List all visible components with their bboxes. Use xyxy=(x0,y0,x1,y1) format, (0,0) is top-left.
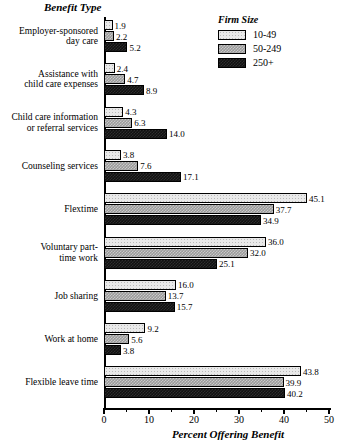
bar-value-label: 25.1 xyxy=(219,259,235,269)
bar xyxy=(104,345,121,355)
legend-swatch xyxy=(218,44,246,54)
x-tick-minor-25 xyxy=(216,409,217,412)
legend-label: 10-49 xyxy=(253,29,276,40)
bar-value-label: 3.8 xyxy=(123,346,134,356)
bar-value-label: 8.9 xyxy=(146,86,157,96)
legend-swatch xyxy=(218,58,246,68)
bar xyxy=(104,366,301,376)
x-axis-title-text: Percent Offering Benefit xyxy=(172,428,284,440)
bar-value-label: 13.7 xyxy=(168,291,184,301)
category-label: Job sharing xyxy=(0,291,98,302)
bar-value-label: 17.1 xyxy=(183,172,199,182)
x-tick-label-40: 40 xyxy=(279,414,289,425)
x-tick-label-50: 50 xyxy=(324,414,334,425)
bar-value-label: 39.9 xyxy=(286,378,302,388)
bar-value-label: 37.7 xyxy=(276,205,292,215)
x-tick-label-20: 20 xyxy=(189,414,199,425)
x-tick-label-10: 10 xyxy=(144,414,154,425)
chart-figure: Benefit Type 01020304050 1.92.25.22.44.7… xyxy=(0,0,344,446)
legend-title: Firm Size xyxy=(218,14,328,25)
bar xyxy=(104,129,167,139)
bar-value-label: 4.7 xyxy=(127,75,138,85)
category-label: Assistance with child care expenses xyxy=(0,69,98,90)
bar-value-label: 14.0 xyxy=(169,129,185,139)
legend-rows: 10-4950-249250+ xyxy=(218,29,328,68)
category-label: Child care information or referral servi… xyxy=(0,112,98,133)
category-label: Counseling services xyxy=(0,161,98,172)
bar xyxy=(104,291,166,301)
category-label: Flexible leave time xyxy=(0,377,98,388)
x-tick-minor-35 xyxy=(261,409,262,412)
x-axis-title: Percent Offering Benefit xyxy=(0,428,344,440)
legend-label: 50-249 xyxy=(253,43,281,54)
bar-value-label: 45.1 xyxy=(309,194,325,204)
bar-value-label: 1.9 xyxy=(115,21,126,31)
bar-value-label: 9.2 xyxy=(147,324,158,334)
bar xyxy=(104,31,114,41)
category-label: Work at home xyxy=(0,334,98,345)
category-label: Employer-sponsored day care xyxy=(0,26,98,47)
bar-value-label: 5.2 xyxy=(129,43,140,53)
bar xyxy=(104,323,145,333)
bar xyxy=(104,74,125,84)
bar-value-label: 5.6 xyxy=(131,335,142,345)
category-label: Flextime xyxy=(0,204,98,215)
bar xyxy=(104,193,307,203)
x-tick-label-30: 30 xyxy=(234,414,244,425)
bar xyxy=(104,20,113,30)
bar-value-label: 3.8 xyxy=(123,150,134,160)
bar xyxy=(104,107,123,117)
bar-value-label: 4.3 xyxy=(125,107,136,117)
bar xyxy=(104,42,127,52)
bar-value-label: 40.2 xyxy=(287,389,303,399)
bar-value-label: 36.0 xyxy=(268,237,284,247)
bar xyxy=(104,118,132,128)
bar xyxy=(104,248,248,258)
legend-item: 250+ xyxy=(218,57,328,68)
legend-swatch xyxy=(218,30,246,40)
bar xyxy=(104,377,284,387)
bar-value-label: 6.3 xyxy=(134,118,145,128)
bar xyxy=(104,215,261,225)
category-label: Voluntary part- time work xyxy=(0,242,98,263)
bar-value-label: 2.2 xyxy=(116,32,127,42)
bar xyxy=(104,85,144,95)
x-tick-label-0: 0 xyxy=(102,414,107,425)
legend-label: 250+ xyxy=(253,57,274,68)
x-tick-minor-5 xyxy=(126,409,127,412)
bar xyxy=(104,334,129,344)
legend: Firm Size 10-4950-249250+ xyxy=(218,14,328,71)
legend-item: 50-249 xyxy=(218,43,328,54)
bar-value-label: 7.6 xyxy=(140,161,151,171)
bar-value-label: 16.0 xyxy=(178,280,194,290)
bar xyxy=(104,63,115,73)
bar xyxy=(104,150,121,160)
bar xyxy=(104,259,217,269)
bar xyxy=(104,204,274,214)
x-tick-minor-15 xyxy=(171,409,172,412)
x-tick-minor-45 xyxy=(306,409,307,412)
bar-value-label: 43.8 xyxy=(303,367,319,377)
y-axis-title: Benefit Type xyxy=(44,1,101,13)
legend-item: 10-49 xyxy=(218,29,328,40)
bar xyxy=(104,280,176,290)
bar-value-label: 34.9 xyxy=(263,216,279,226)
bar xyxy=(104,237,266,247)
bar-value-label: 32.0 xyxy=(250,248,266,258)
bar xyxy=(104,161,138,171)
bar xyxy=(104,302,175,312)
bar xyxy=(104,172,181,182)
bar xyxy=(104,388,285,398)
bar-value-label: 15.7 xyxy=(177,302,193,312)
bar-value-label: 2.4 xyxy=(117,64,128,74)
